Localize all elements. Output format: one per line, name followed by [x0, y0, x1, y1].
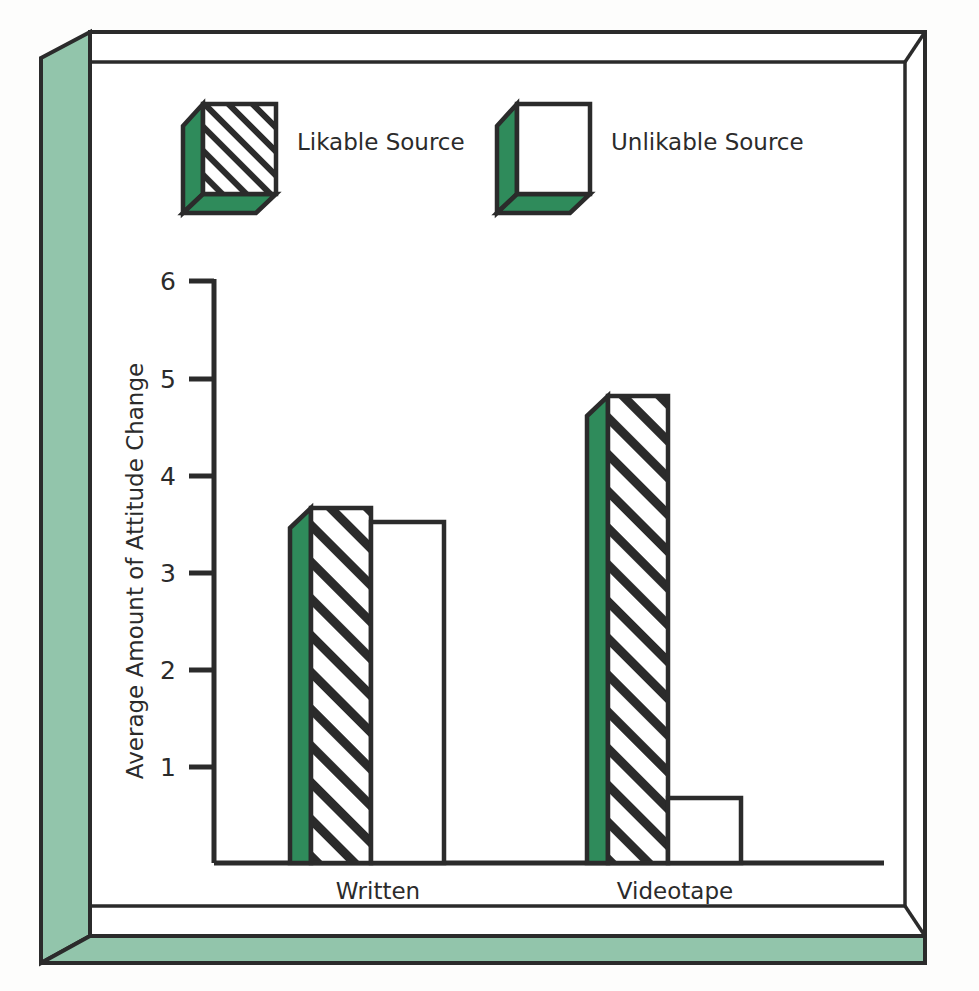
y-tick-label-4: 4 [160, 462, 176, 491]
legend-label-unlikable-source: Unlikable Source [611, 129, 804, 155]
bar-front-face [668, 798, 741, 863]
x-category-label-videotape: Videotape [617, 878, 733, 904]
y-tick-label-1: 1 [160, 753, 176, 782]
bar-written-unlikable-source[interactable] [371, 522, 444, 863]
bar-front-face [311, 508, 371, 863]
bar-front-face [371, 522, 444, 863]
legend-label-likable-source: Likable Source [297, 129, 465, 155]
frame-floor [41, 936, 925, 963]
bar-written-likable-source[interactable] [290, 508, 371, 863]
y-tick-label-6: 6 [160, 267, 176, 296]
bar-chart-svg: Likable Source Unlikable Source [0, 0, 979, 991]
figure-container: Likable Source Unlikable Source [0, 0, 979, 991]
y-axis-title: Average Amount of Attitude Change [122, 363, 148, 779]
bar-videotape-unlikable-source[interactable] [668, 798, 741, 863]
y-tick-label-5: 5 [160, 365, 176, 394]
decorative-3d-frame [41, 32, 925, 963]
x-category-label-written: Written [336, 878, 420, 904]
y-tick-label-2: 2 [160, 656, 176, 685]
y-tick-label-3: 3 [160, 559, 176, 588]
white-3d-box-icon [497, 104, 590, 213]
bar-front-face [608, 396, 668, 863]
bar-side-face [587, 396, 608, 863]
frame-left-wall [41, 32, 90, 963]
bar-side-face [290, 508, 311, 863]
bar-videotape-likable-source[interactable] [587, 396, 668, 863]
bar-group-written: Written [290, 508, 444, 904]
